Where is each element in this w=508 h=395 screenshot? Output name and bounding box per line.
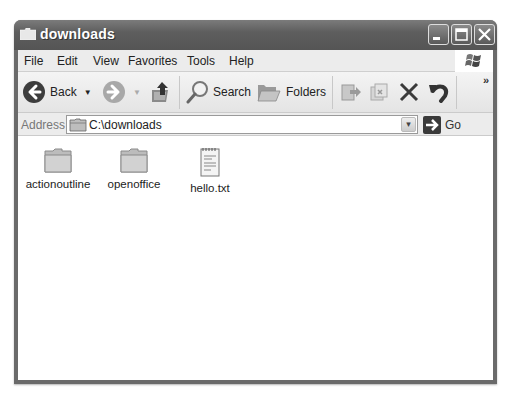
menu-edit[interactable]: Edit (57, 54, 78, 68)
up-folder-icon (150, 80, 172, 104)
back-dropdown-icon[interactable]: ▼ (84, 88, 92, 97)
up-button[interactable] (150, 72, 172, 112)
address-input[interactable]: C:\downloads ▾ (66, 115, 418, 134)
copy-to-icon (368, 81, 390, 103)
close-button[interactable] (474, 24, 495, 45)
folders-button[interactable]: Folders (256, 72, 326, 112)
back-label: Back (50, 85, 77, 99)
maximize-button[interactable] (451, 24, 472, 45)
menu-bar: File Edit View Favorites Tools Help (18, 50, 493, 72)
address-bar: Address C:\downloads ▾ Go (18, 113, 493, 136)
search-button[interactable]: Search (186, 72, 251, 112)
delete-icon (398, 81, 420, 103)
toolbar-separator (179, 76, 180, 109)
window-body: File Edit View Favorites Tools Help (18, 50, 493, 380)
toolbar-separator (332, 76, 333, 109)
address-dropdown-button[interactable]: ▾ (401, 117, 416, 132)
menu-view[interactable]: View (93, 54, 119, 68)
explorer-window: downloads File Edit View Favorites Tools… (14, 20, 497, 384)
delete-button[interactable] (398, 72, 420, 112)
address-label: Address (21, 118, 65, 132)
file-name: actionoutline (18, 178, 98, 190)
window-title: downloads (40, 26, 115, 42)
text-file-icon (197, 146, 223, 178)
toolbar-separator (456, 76, 457, 109)
go-label: Go (445, 118, 461, 132)
forward-icon (102, 80, 126, 104)
menu-favorites[interactable]: Favorites (128, 54, 177, 68)
menu-help[interactable]: Help (229, 54, 254, 68)
minimize-icon (429, 25, 448, 44)
move-to-icon (340, 81, 362, 103)
file-item-actionoutline[interactable]: actionoutline (18, 146, 98, 190)
address-value: C:\downloads (89, 118, 162, 132)
forward-dropdown-icon[interactable]: ▼ (133, 88, 141, 97)
title-bar[interactable]: downloads (14, 20, 497, 50)
standard-toolbar: Back ▼ ▼ (18, 72, 493, 113)
forward-button[interactable]: ▼ (102, 72, 141, 112)
maximize-icon (452, 25, 471, 44)
undo-button[interactable] (427, 72, 451, 112)
folder-icon (118, 146, 150, 174)
go-button[interactable]: Go (423, 115, 461, 134)
minimize-button[interactable] (428, 24, 449, 45)
go-arrow-icon (423, 116, 441, 134)
close-icon (475, 25, 494, 44)
search-label: Search (213, 85, 251, 99)
move-to-button[interactable] (340, 72, 362, 112)
folder-icon (20, 28, 36, 40)
file-list-pane[interactable]: actionoutline openoffice hello.txt (18, 136, 493, 380)
menu-tools[interactable]: Tools (187, 54, 215, 68)
file-item-openoffice[interactable]: openoffice (94, 146, 174, 190)
file-item-hello-txt[interactable]: hello.txt (170, 146, 250, 194)
toolbar-overflow-button[interactable]: » (483, 74, 489, 86)
back-button[interactable]: Back ▼ (22, 72, 92, 112)
folders-label: Folders (286, 85, 326, 99)
undo-icon (427, 81, 451, 103)
copy-to-button[interactable] (368, 72, 390, 112)
windows-logo (455, 50, 493, 72)
folders-icon (256, 81, 282, 103)
folder-icon (42, 146, 74, 174)
menu-file[interactable]: File (24, 54, 43, 68)
file-name: openoffice (94, 178, 174, 190)
back-icon (22, 80, 46, 104)
windows-flag-icon (465, 52, 483, 70)
file-name: hello.txt (170, 182, 250, 194)
search-icon (186, 80, 210, 104)
folder-icon (69, 118, 87, 132)
